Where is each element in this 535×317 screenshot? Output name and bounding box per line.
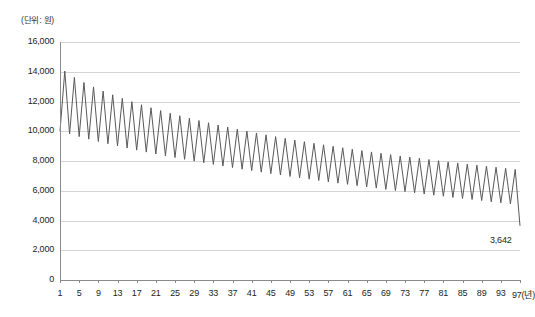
x-tick-mark (367, 280, 368, 283)
x-tick-mark (290, 280, 291, 283)
y-tick-label: 0 (2, 274, 54, 284)
x-tick-label: 93 (496, 288, 506, 298)
x-tick-mark (175, 280, 176, 283)
x-tick-label: 49 (285, 288, 295, 298)
y-tick-label: 2,000 (2, 244, 54, 254)
x-tick-mark (271, 280, 272, 283)
x-tick-label: 21 (151, 288, 161, 298)
x-tick-label: 53 (304, 288, 314, 298)
y-axis-tick-labels: 02,0004,0006,0008,00010,00012,00014,0001… (0, 0, 54, 317)
x-tick-mark (424, 280, 425, 283)
x-tick-mark (405, 280, 406, 283)
x-tick-mark (137, 280, 138, 283)
x-tick-label: 1 (58, 288, 63, 298)
x-tick-mark (118, 280, 119, 283)
x-tick-label: 17 (132, 288, 142, 298)
x-tick-mark (482, 280, 483, 283)
x-tick-label: 61 (343, 288, 353, 298)
x-tick-label: 41 (247, 288, 257, 298)
x-tick-label: 13 (113, 288, 123, 298)
x-tick-mark (79, 280, 80, 283)
x-tick-mark (156, 280, 157, 283)
x-tick-label: 33 (209, 288, 219, 298)
x-tick-mark (348, 280, 349, 283)
y-tick-label: 8,000 (2, 155, 54, 165)
x-tick-mark (98, 280, 99, 283)
x-tick-mark (520, 280, 521, 283)
y-tick-label: 10,000 (2, 125, 54, 135)
x-tick-label: 69 (381, 288, 391, 298)
x-tick-label: 65 (362, 288, 372, 298)
x-tick-mark (309, 280, 310, 283)
x-tick-mark (386, 280, 387, 283)
x-tick-label: 57 (324, 288, 334, 298)
x-tick-label: 85 (458, 288, 468, 298)
y-axis-line (60, 42, 61, 281)
x-tick-label: 5 (77, 288, 82, 298)
y-tick-label: 12,000 (2, 96, 54, 106)
y-tick-label: 14,000 (2, 66, 54, 76)
end-value-annotation: 3,642 (490, 235, 512, 245)
x-tick-label: 73 (400, 288, 410, 298)
y-tick-label: 6,000 (2, 185, 54, 195)
plot-area (60, 42, 520, 280)
x-tick-label: 25 (170, 288, 180, 298)
x-tick-mark (194, 280, 195, 283)
x-tick-mark (328, 280, 329, 283)
x-tick-label: 97(년) (512, 288, 535, 301)
x-tick-label: 77 (419, 288, 429, 298)
x-tick-label: 37 (228, 288, 238, 298)
x-tick-mark (213, 280, 214, 283)
x-tick-mark (501, 280, 502, 283)
x-tick-mark (252, 280, 253, 283)
y-tick-label: 16,000 (2, 36, 54, 46)
x-tick-label: 89 (477, 288, 487, 298)
y-tick-label: 4,000 (2, 215, 54, 225)
x-tick-mark (463, 280, 464, 283)
x-tick-mark (233, 280, 234, 283)
x-tick-mark (443, 280, 444, 283)
series-polyline (60, 71, 520, 226)
x-tick-label: 9 (96, 288, 101, 298)
x-tick-mark (60, 280, 61, 283)
line-series (60, 42, 520, 280)
x-tick-label: 81 (439, 288, 449, 298)
x-tick-label: 45 (266, 288, 276, 298)
x-tick-label: 29 (189, 288, 199, 298)
